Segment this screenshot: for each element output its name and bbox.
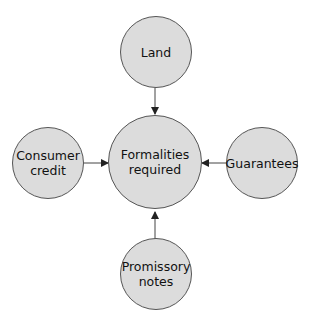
node-formalities-required: Formalities required (108, 115, 202, 209)
node-land: Land (120, 16, 192, 88)
node-promissory-notes: Promissory notes (120, 238, 192, 310)
diagram: Land Formalities required Consumer credi… (0, 0, 309, 315)
node-guarantees: Guarantees (226, 127, 298, 199)
node-consumer-credit: Consumer credit (12, 127, 84, 199)
